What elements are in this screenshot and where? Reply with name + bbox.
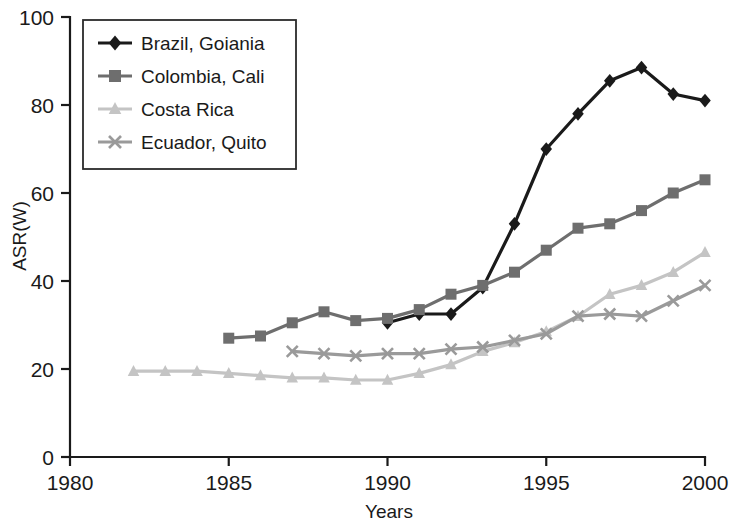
- line-chart: 020406080100 19801985199019952000 Brazil…: [0, 0, 739, 529]
- y-axis-title: ASR(W): [9, 201, 30, 271]
- x-tick-label: 1985: [205, 471, 252, 494]
- x-tick-label: 1990: [364, 471, 411, 494]
- y-tick-label: 40: [31, 270, 54, 293]
- data-point-marker: [700, 174, 711, 185]
- data-point-marker: [541, 245, 552, 256]
- data-point-marker: [636, 205, 647, 216]
- data-point-marker: [287, 317, 298, 328]
- data-point-marker: [477, 280, 488, 291]
- data-point-marker: [350, 315, 361, 326]
- y-tick-label: 0: [42, 446, 54, 469]
- data-point-marker: [382, 313, 393, 324]
- chart-container: 020406080100 19801985199019952000 Brazil…: [0, 0, 739, 529]
- y-tick-label: 100: [19, 6, 54, 29]
- legend-label: Costa Rica: [141, 99, 234, 120]
- data-point-marker: [573, 223, 584, 234]
- data-point-marker: [223, 333, 234, 344]
- legend-label: Brazil, Goiania: [141, 33, 265, 54]
- data-point-marker: [109, 70, 121, 82]
- data-point-marker: [668, 188, 679, 199]
- x-tick-label: 1995: [523, 471, 570, 494]
- x-axis-title: Years: [365, 501, 413, 522]
- data-point-marker: [319, 306, 330, 317]
- data-point-marker: [446, 289, 457, 300]
- chart-legend[interactable]: Brazil, GoianiaColombia, CaliCosta RicaE…: [83, 20, 296, 169]
- legend-label: Ecuador, Quito: [141, 132, 267, 153]
- y-tick-label: 60: [31, 182, 54, 205]
- data-point-marker: [255, 331, 266, 342]
- data-point-marker: [414, 304, 425, 315]
- data-point-marker: [509, 267, 520, 278]
- x-tick-label: 2000: [682, 471, 729, 494]
- x-tick-label: 1980: [47, 471, 94, 494]
- legend-label: Colombia, Cali: [141, 66, 265, 87]
- y-tick-label: 20: [31, 358, 54, 381]
- y-tick-label: 80: [31, 94, 54, 117]
- data-point-marker: [604, 218, 615, 229]
